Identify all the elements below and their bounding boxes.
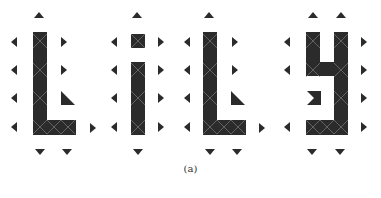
- arrow-right-icon: [90, 123, 96, 133]
- arrow-left-icon: [111, 122, 117, 132]
- tile-block: [203, 32, 217, 135]
- arrow-left-icon: [11, 65, 17, 75]
- arrow-down-icon: [62, 149, 72, 155]
- arrow-left-icon: [284, 37, 290, 47]
- arrow-right-icon: [361, 122, 367, 132]
- arrow-right-icon: [158, 93, 164, 103]
- arrow-right-icon: [158, 65, 164, 75]
- arrow-down-icon: [307, 149, 317, 155]
- arrow-right-icon: [361, 37, 367, 47]
- letter-i-1: [111, 12, 164, 155]
- arrow-down-icon: [35, 149, 45, 155]
- letter-l-2: [184, 12, 265, 155]
- arrow-left-icon: [184, 37, 190, 47]
- arrow-up-icon: [204, 12, 214, 18]
- arrow-down-icon: [232, 149, 242, 155]
- arrow-left-icon: [284, 122, 290, 132]
- arrow-down-icon: [335, 149, 345, 155]
- arrow-left-icon: [184, 65, 190, 75]
- arrow-down-icon: [133, 149, 143, 155]
- letter-l-0: [11, 12, 96, 155]
- arrow-left-icon: [11, 93, 17, 103]
- arrow-right-icon: [61, 65, 67, 75]
- tile-triangle: [307, 91, 321, 105]
- figure-caption: (a): [0, 163, 381, 174]
- tile-block: [334, 32, 348, 135]
- arrow-left-icon: [284, 65, 290, 75]
- arrow-left-icon: [184, 93, 190, 103]
- arrow-down-icon: [205, 149, 215, 155]
- arrow-right-icon: [361, 65, 367, 75]
- tile-block: [131, 62, 145, 135]
- arrow-right-icon: [158, 37, 164, 47]
- arrow-right-icon: [232, 65, 238, 75]
- tile-block: [33, 32, 47, 135]
- tile-triangle: [231, 91, 245, 105]
- arrow-up-icon: [336, 12, 346, 18]
- arrow-left-icon: [111, 65, 117, 75]
- arrow-right-icon: [259, 123, 265, 133]
- arrow-up-icon: [132, 12, 142, 18]
- arrow-left-icon: [111, 93, 117, 103]
- arrow-left-icon: [11, 122, 17, 132]
- arrow-right-icon: [158, 122, 164, 132]
- arrow-left-icon: [184, 122, 190, 132]
- arrow-right-icon: [361, 93, 367, 103]
- arrow-right-icon: [61, 37, 67, 47]
- arrow-left-icon: [11, 37, 17, 47]
- letter-y-3: [284, 12, 367, 155]
- arrow-up-icon: [308, 12, 318, 18]
- arrow-up-icon: [34, 12, 44, 18]
- arrow-right-icon: [232, 37, 238, 47]
- arrow-left-icon: [111, 37, 117, 47]
- tile-triangle: [61, 91, 75, 105]
